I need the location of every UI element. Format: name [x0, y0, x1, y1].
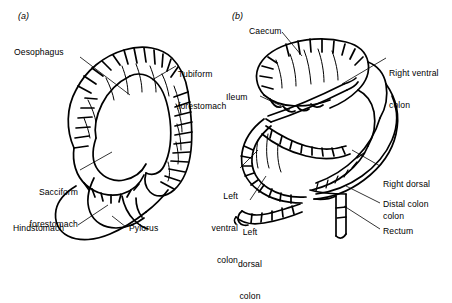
label-pylorus: Pylorus: [129, 223, 158, 234]
leader-ileum: [260, 96, 290, 110]
label-right-ventral-colon: Right ventral colon: [389, 47, 439, 132]
label-caecum: Caecum: [249, 26, 282, 37]
label-left-dorsal-colon-line3: colon: [228, 291, 272, 302]
label-left-ventral-colon-line1: Left: [198, 191, 238, 202]
label-rectum: Rectum: [383, 226, 413, 237]
label-left-dorsal-colon-line2: dorsal: [228, 259, 272, 270]
label-right-ventral-colon-line2: colon: [389, 100, 439, 111]
label-sacciform-forestomach: Sacciform forestomach: [4, 166, 78, 251]
label-distal-colon: Distal colon: [383, 199, 429, 210]
label-right-dorsal-colon-line2: colon: [383, 211, 430, 222]
label-right-dorsal-colon-line1: Right dorsal: [383, 179, 430, 190]
label-tubiform-forestomach-line2: forestomach: [178, 101, 226, 112]
label-hindstomach: Hindstomach: [13, 223, 64, 234]
label-ileum: Ileum: [226, 92, 248, 103]
label-left-dorsal-colon: Left dorsal colon: [228, 206, 272, 303]
label-tubiform-forestomach: Tubiform forestomach: [178, 48, 226, 133]
panel-label-b: (b): [232, 11, 243, 21]
label-right-ventral-colon-line1: Right ventral: [389, 68, 439, 79]
leader-distal-colon: [346, 186, 380, 203]
leader-oesophagus: [80, 57, 130, 95]
label-tubiform-forestomach-line1: Tubiform: [178, 69, 226, 80]
leader-rectum: [344, 206, 380, 229]
label-oesophagus: Oesophagus: [14, 47, 64, 58]
label-sacciform-forestomach-line1: Sacciform: [4, 187, 78, 198]
leader-pylorus: [112, 216, 126, 227]
leader-hindstomach: [78, 205, 108, 225]
label-left-dorsal-colon-line1: Left: [228, 227, 272, 238]
panel-label-a: (a): [18, 11, 29, 21]
